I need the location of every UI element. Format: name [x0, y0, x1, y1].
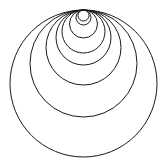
circle-8 — [10, 10, 157, 157]
circle-3 — [70, 10, 98, 38]
diagram-canvas — [0, 0, 163, 168]
circle-7 — [30, 10, 137, 117]
nested-tangent-circles-diagram — [0, 0, 163, 168]
circle-4 — [62, 10, 105, 53]
